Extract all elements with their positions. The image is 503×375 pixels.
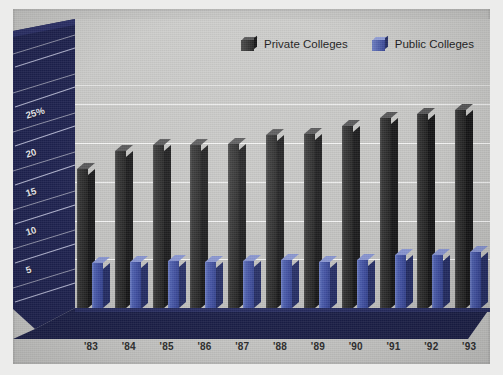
legend-label-public: Public Colleges — [395, 38, 474, 50]
bar-side — [330, 262, 337, 308]
x-axis-tick-label: '93 — [454, 341, 484, 352]
bar-public-92 — [432, 255, 443, 308]
bar-face — [153, 145, 164, 308]
bar-side — [368, 260, 375, 308]
x-axis-tick-label: '91 — [379, 341, 409, 352]
chart-bars — [13, 9, 490, 364]
x-axis-tick-label: '89 — [303, 341, 333, 352]
bar-face — [417, 114, 428, 308]
legend-entry-public: Public Colleges — [372, 37, 474, 51]
bar-private-88 — [266, 135, 277, 308]
x-axis-tick-label: '92 — [416, 341, 446, 352]
bar-face — [77, 169, 88, 308]
x-axis-tick-label: '88 — [265, 341, 295, 352]
bar-private-83 — [77, 169, 88, 308]
bar-public-86 — [205, 262, 216, 309]
bar-side — [141, 262, 148, 308]
bar-side — [406, 255, 413, 308]
bar-face — [357, 260, 368, 308]
bar-face — [190, 145, 201, 308]
bar-face — [168, 261, 179, 308]
bar-public-88 — [281, 260, 292, 308]
bar-face — [395, 255, 406, 308]
bar-face — [281, 260, 292, 308]
bar-public-84 — [130, 262, 141, 309]
bar-private-85 — [153, 145, 164, 308]
legend-swatch-private-icon — [241, 37, 257, 51]
bar-private-87 — [228, 144, 239, 308]
bar-face — [115, 151, 126, 308]
x-axis-tick-label: '86 — [189, 341, 219, 352]
bar-side — [179, 261, 186, 308]
chart-figure: 510152025% '83'84'85'86'87'88'89'90'91'9… — [0, 0, 503, 375]
x-axis-tick-label: '90 — [341, 341, 371, 352]
bar-private-92 — [417, 114, 428, 308]
bar-face — [319, 262, 330, 309]
bar-side — [216, 262, 223, 308]
bar-public-85 — [168, 261, 179, 308]
x-axis-tick-label: '84 — [114, 341, 144, 352]
bar-face — [92, 263, 103, 308]
x-axis-tick-label: '83 — [76, 341, 106, 352]
bar-face — [304, 134, 315, 308]
bar-face — [243, 261, 254, 308]
bar-side — [292, 260, 299, 308]
bar-private-90 — [342, 126, 353, 308]
bar-public-89 — [319, 262, 330, 309]
legend-swatch-public-icon — [372, 37, 388, 51]
bar-face — [455, 110, 466, 308]
bar-face — [432, 255, 443, 308]
bar-private-86 — [190, 145, 201, 308]
bar-side — [103, 263, 110, 308]
bar-public-90 — [357, 260, 368, 308]
bar-face — [470, 252, 481, 308]
bar-face — [205, 262, 216, 309]
bar-face — [228, 144, 239, 308]
bar-public-87 — [243, 261, 254, 308]
legend-entry-private: Private Colleges — [241, 37, 348, 51]
bar-face — [380, 118, 391, 308]
bar-side — [481, 252, 488, 308]
bar-private-93 — [455, 110, 466, 308]
bar-side — [254, 261, 261, 308]
bar-private-89 — [304, 134, 315, 308]
x-axis-tick-label: '87 — [227, 341, 257, 352]
bar-face — [342, 126, 353, 308]
bar-public-91 — [395, 255, 406, 308]
bar-public-93 — [470, 252, 481, 308]
bar-face — [130, 262, 141, 309]
chart-plate: 510152025% '83'84'85'86'87'88'89'90'91'9… — [13, 9, 490, 364]
bar-private-84 — [115, 151, 126, 308]
bar-face — [266, 135, 277, 308]
x-axis-tick-label: '85 — [152, 341, 182, 352]
bar-public-83 — [92, 263, 103, 308]
chart-legend: Private Colleges Public Colleges — [241, 37, 474, 51]
bar-side — [443, 255, 450, 308]
legend-label-private: Private Colleges — [264, 38, 348, 50]
bar-private-91 — [380, 118, 391, 308]
